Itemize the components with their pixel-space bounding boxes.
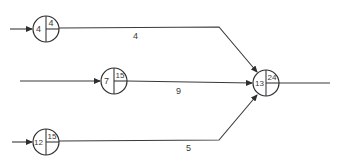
node-4: 13 24 bbox=[253, 70, 279, 96]
node-2: 7 15 bbox=[101, 68, 127, 94]
node-3-top-right-value: 15 bbox=[48, 132, 57, 141]
node-1: 4 4 bbox=[33, 16, 59, 42]
network-diagram: 4 9 5 4 4 7 15 12 15 13 24 bbox=[0, 0, 340, 163]
edge-label-3: 5 bbox=[186, 143, 191, 153]
node-2-top-right-value: 15 bbox=[116, 71, 125, 80]
edge-node-1-to-node-4 bbox=[59, 27, 257, 72]
edge-label-1: 4 bbox=[133, 31, 138, 41]
edge-node-2-to-node-4 bbox=[127, 81, 252, 83]
node-4-top-right-value: 24 bbox=[268, 73, 277, 82]
node-3-left-value: 12 bbox=[34, 138, 43, 147]
node-3: 12 15 bbox=[33, 129, 59, 155]
node-4-left-value: 13 bbox=[255, 79, 264, 88]
edge-label-2: 9 bbox=[176, 86, 181, 96]
node-1-left-value: 4 bbox=[36, 24, 41, 34]
edge-node-3-to-node-4 bbox=[59, 95, 257, 141]
node-1-top-right-value: 4 bbox=[49, 18, 54, 28]
node-2-left-value: 7 bbox=[104, 76, 109, 86]
